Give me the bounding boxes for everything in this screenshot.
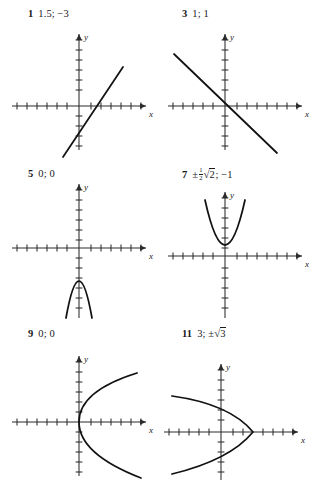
graph-3: x y — [160, 18, 319, 160]
problem-panel-9: 90; 0 — [0, 320, 159, 480]
axes-7: x y — [168, 190, 309, 318]
graph-7: x y — [160, 178, 319, 320]
axes-1: x y — [12, 32, 153, 150]
problem-panel-11: 113; ±√3 — [160, 320, 319, 480]
problem-panel-1: 11.5; −3 — [0, 0, 159, 160]
x-axis-label: x — [148, 251, 153, 261]
axes-3: x y — [168, 32, 309, 150]
x-axis-label: x — [304, 109, 309, 119]
graph-11: x y — [160, 338, 319, 480]
y-axis-label: y — [229, 190, 234, 200]
y-axis-label: y — [83, 182, 88, 192]
axes-11: x y — [164, 362, 305, 480]
answer-key-page: 11.5; −3 — [0, 0, 319, 481]
problem-panel-7: 7±12√2; −1 — [160, 160, 319, 320]
parabola-right-curve-9 — [79, 373, 141, 478]
line-curve-1 — [63, 67, 123, 157]
problem-panel-3: 31; 1 — [160, 0, 319, 160]
problem-panel-5: 50; 0 — [0, 160, 159, 320]
x-axis-label: x — [300, 435, 305, 445]
y-axis-label: y — [225, 362, 230, 372]
y-axis-label: y — [83, 32, 88, 42]
graph-5: x y — [0, 178, 159, 320]
graph-1: x y — [0, 18, 159, 160]
axes-5: x y — [12, 182, 153, 318]
y-axis-label: y — [229, 32, 234, 42]
x-axis-label: x — [148, 425, 153, 435]
parabola-left-curve-11 — [172, 396, 253, 474]
x-axis-label: x — [148, 109, 153, 119]
graph-9: x y — [0, 338, 159, 480]
axes-9: x y — [12, 354, 153, 476]
x-axis-label: x — [304, 259, 309, 269]
y-axis-label: y — [83, 354, 88, 364]
